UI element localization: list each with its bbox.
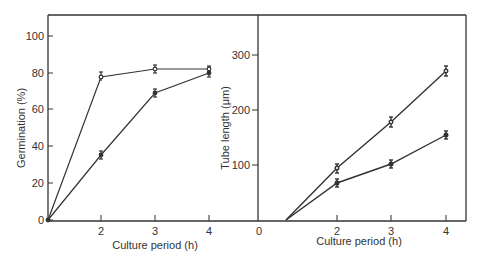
right-x-ticks: [337, 215, 446, 221]
right-series-open: [286, 66, 448, 220]
right-y-axis-label: Tube length (μm): [219, 86, 231, 170]
right-y-ticks: [252, 55, 258, 165]
left-x-ticks: [101, 215, 209, 221]
right-ytick-100: 100: [232, 159, 250, 171]
figure: 0 20 40 60 80 100 2 3 4 Culture period (…: [0, 0, 482, 261]
right-series-filled: [286, 131, 448, 220]
left-ytick-80: 80: [32, 67, 44, 79]
left-ytick-20: 20: [32, 177, 44, 189]
left-y-ticks: [48, 36, 53, 220]
left-ytick-40: 40: [32, 140, 44, 152]
left-y-axis-label: Germination (%): [15, 88, 27, 168]
right-ytick-300: 300: [232, 49, 250, 61]
right-xtick-0: 0: [256, 225, 262, 237]
left-xtick-4: 4: [206, 225, 212, 237]
frame: [48, 15, 466, 221]
left-xtick-2: 2: [98, 225, 104, 237]
left-x-axis-label: Culture period (h): [112, 239, 198, 251]
left-xtick-3: 3: [152, 225, 158, 237]
right-x-axis-label: Culture period (h): [316, 235, 402, 247]
right-xtick-4: 4: [443, 225, 449, 237]
left-panel: 0 20 40 60 80 100 2 3 4 Culture period (…: [15, 30, 212, 251]
left-series-filled: [46, 70, 211, 222]
left-ytick-0: 0: [38, 214, 44, 226]
left-ytick-60: 60: [32, 103, 44, 115]
right-panel: 300 200 100 0 2 3 4 Culture period (h) T…: [219, 49, 449, 247]
left-series-open: [48, 65, 211, 220]
right-ytick-200: 200: [232, 104, 250, 116]
left-ytick-100: 100: [26, 30, 44, 42]
